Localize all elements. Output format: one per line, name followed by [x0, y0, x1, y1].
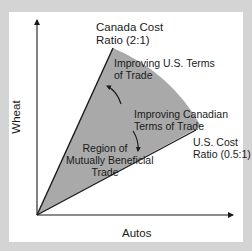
- region-label: Region of Mutually Beneficial Trade: [66, 143, 144, 178]
- us-cost-ratio-label-line1: U.S. Cost: [193, 137, 251, 149]
- improving-canadian-terms-label: Improving Canadian Terms of Trade: [134, 109, 228, 133]
- improving-us-terms-label: Improving U.S. Terms of Trade: [114, 58, 215, 82]
- x-axis-label: Autos: [122, 227, 151, 240]
- region-label-line2: Mutually Beneficial: [66, 155, 144, 167]
- improving-canadian-terms-line2: Terms of Trade: [134, 121, 228, 133]
- improving-us-terms-line2: of Trade: [114, 70, 215, 82]
- y-axis-label: Wheat: [10, 99, 24, 135]
- region-label-line3: Trade: [66, 167, 144, 179]
- improving-us-terms-line1: Improving U.S. Terms: [114, 58, 215, 70]
- canada-cost-ratio-label-line2: Ratio (2:1): [96, 34, 163, 47]
- us-cost-ratio-label-line2: Ratio (0.5:1): [193, 149, 251, 161]
- canada-cost-ratio-label-line1: Canada Cost: [96, 21, 163, 34]
- diagram-canvas: Wheat Autos Canada Cost Ratio (2:1) U.S.…: [0, 0, 252, 251]
- region-label-line1: Region of: [66, 143, 144, 155]
- improving-canadian-terms-line1: Improving Canadian: [134, 109, 228, 121]
- us-cost-ratio-label: U.S. Cost Ratio (0.5:1): [193, 137, 251, 161]
- canada-cost-ratio-label: Canada Cost Ratio (2:1): [96, 21, 163, 47]
